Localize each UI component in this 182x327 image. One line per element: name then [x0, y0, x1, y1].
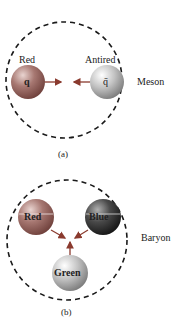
- meson-label: Meson: [137, 76, 164, 87]
- antiquark-symbol: q̄: [103, 76, 108, 87]
- meson-panel: Red Antired q q̄ Meson (a): [6, 22, 164, 159]
- antired-label: Antired: [85, 54, 116, 65]
- arrow-red: [51, 230, 65, 238]
- baryon-label: Baryon: [141, 232, 170, 243]
- green-label: Green: [54, 267, 81, 278]
- quark-diagram: Red Antired q q̄ Meson (a) Red Blue Gree…: [0, 0, 182, 327]
- caption-a: (a): [58, 149, 68, 159]
- arrow-blue: [75, 230, 88, 238]
- blue-label: Blue: [89, 211, 109, 222]
- baryon-panel: Red Blue Green Baryon (b): [7, 180, 170, 317]
- caption-b: (b): [61, 307, 72, 317]
- red-label: Red: [19, 54, 35, 65]
- quark-symbol: q: [24, 76, 30, 87]
- red-label: Red: [24, 211, 42, 222]
